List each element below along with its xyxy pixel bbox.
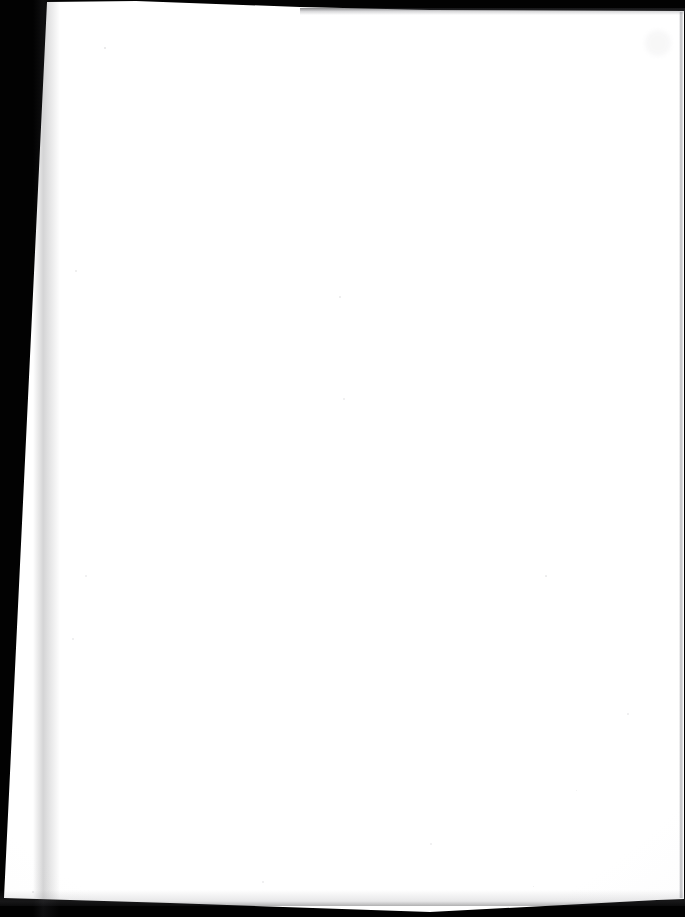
scanned-paper-sheet [0,0,685,917]
scanned-page-viewport [0,0,685,917]
page-text-content [0,0,685,917]
